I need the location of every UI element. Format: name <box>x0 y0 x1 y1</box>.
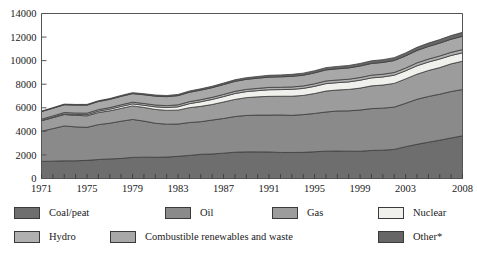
plot-svg: 0200040006000800010000120001400019711975… <box>0 0 477 200</box>
legend-swatch-gas <box>272 207 298 219</box>
legend-item-other[interactable]: Other* <box>378 230 442 244</box>
svg-text:8000: 8000 <box>16 79 37 90</box>
legend-label-combustible-renewables-and-waste: Combustible renewables and waste <box>145 231 293 243</box>
svg-text:1995: 1995 <box>304 183 325 194</box>
legend-label-hydro: Hydro <box>49 231 76 243</box>
svg-text:4000: 4000 <box>16 126 37 137</box>
legend-swatch-other <box>378 231 404 243</box>
legend-label-nuclear: Nuclear <box>413 207 446 219</box>
legend-item-coal-peat[interactable]: Coal/peat <box>14 206 89 220</box>
svg-text:1987: 1987 <box>213 183 234 194</box>
legend-item-nuclear[interactable]: Nuclear <box>378 206 446 220</box>
legend-swatch-combustible-renewables-and-waste <box>110 231 136 243</box>
svg-text:1999: 1999 <box>350 183 371 194</box>
svg-text:2008: 2008 <box>452 183 473 194</box>
legend-label-other: Other* <box>413 231 442 243</box>
svg-text:1983: 1983 <box>168 183 189 194</box>
svg-text:6000: 6000 <box>16 102 37 113</box>
legend-swatch-hydro <box>14 231 40 243</box>
svg-text:1979: 1979 <box>122 183 143 194</box>
svg-text:2003: 2003 <box>395 183 416 194</box>
legend-item-combustible-renewables-and-waste[interactable]: Combustible renewables and waste <box>110 230 293 244</box>
svg-text:2000: 2000 <box>16 150 37 161</box>
stacked-area-chart: 0200040006000800010000120001400019711975… <box>0 0 477 200</box>
legend-item-oil[interactable]: Oil <box>165 206 213 220</box>
svg-text:1991: 1991 <box>259 183 280 194</box>
legend-label-coal-peat: Coal/peat <box>49 207 89 219</box>
chart-legend: Coal/peat Oil Gas Nuclear Hydro Combusti… <box>0 202 477 262</box>
legend-label-gas: Gas <box>307 207 323 219</box>
chart-page: 0200040006000800010000120001400019711975… <box>0 0 477 262</box>
svg-text:1975: 1975 <box>77 183 98 194</box>
legend-swatch-nuclear <box>378 207 404 219</box>
legend-swatch-coal-peat <box>14 207 40 219</box>
svg-text:1971: 1971 <box>31 183 52 194</box>
legend-item-hydro[interactable]: Hydro <box>14 230 76 244</box>
legend-item-gas[interactable]: Gas <box>272 206 323 220</box>
svg-text:12000: 12000 <box>10 32 36 43</box>
svg-text:10000: 10000 <box>10 55 36 66</box>
legend-swatch-oil <box>165 207 191 219</box>
legend-label-oil: Oil <box>200 207 213 219</box>
svg-text:14000: 14000 <box>10 8 36 19</box>
